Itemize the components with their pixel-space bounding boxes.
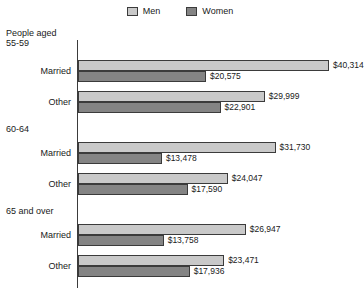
bar-row: $13,478: [78, 153, 329, 164]
bar-row: $29,999: [78, 91, 329, 102]
row-label: Married: [0, 230, 71, 240]
bar-women: [78, 184, 188, 195]
bar-value-label: $23,471: [224, 255, 259, 266]
bar-value-label: $31,730: [276, 142, 311, 153]
bar-men: [78, 255, 224, 266]
row-label: Other: [0, 97, 71, 107]
legend-entry-men: Men: [127, 7, 161, 16]
bar-men: [78, 142, 276, 153]
bar-value-label: $40,314: [329, 60, 364, 71]
bar-women: [78, 153, 162, 164]
plot-area: People aged55-59Married$40,314$20,575Oth…: [0, 26, 360, 303]
bar-value-label: $13,758: [164, 235, 199, 246]
bar-row: $22,901: [78, 102, 329, 113]
chart-legend: Men Women: [0, 3, 360, 19]
bar-men: [78, 60, 329, 71]
bar-row: $24,047: [78, 173, 329, 184]
legend-label-women: Women: [202, 7, 233, 16]
bar-value-label: $22,901: [221, 102, 256, 113]
group-header-2: 60-64: [6, 124, 77, 134]
bar-row: $17,936: [78, 266, 329, 277]
group-header-3: 65 and over: [6, 206, 77, 216]
legend-entry-women: Women: [186, 7, 233, 16]
legend-swatch-women: [186, 7, 197, 16]
bar-row: $23,471: [78, 255, 329, 266]
bar-value-label: $13,478: [162, 153, 197, 164]
bar-row: $13,758: [78, 235, 329, 246]
bar-men: [78, 224, 246, 235]
row-label: Other: [0, 261, 71, 271]
bar-value-label: $17,936: [190, 266, 225, 277]
bar-women: [78, 71, 206, 82]
bar-men: [78, 91, 265, 102]
group-header-line1: People aged: [6, 28, 77, 38]
bar-value-label: $26,947: [246, 224, 281, 235]
bar-men: [78, 173, 228, 184]
bar-row: $17,590: [78, 184, 329, 195]
row-label: Other: [0, 179, 71, 189]
bar-row: $31,730: [78, 142, 329, 153]
bar-row: $20,575: [78, 71, 329, 82]
bar-value-label: $29,999: [265, 91, 300, 102]
row-label: Married: [0, 148, 71, 158]
bar-women: [78, 102, 221, 113]
bar-value-label: $17,590: [188, 184, 223, 195]
group-header-1: People aged55-59: [6, 28, 77, 48]
bar-value-label: $24,047: [228, 173, 263, 184]
bar-row: $40,314: [78, 60, 329, 71]
group-header-line2: 55-59: [6, 38, 77, 48]
legend-swatch-men: [127, 7, 138, 16]
bar-value-label: $20,575: [206, 71, 241, 82]
bar-women: [78, 235, 164, 246]
bar-row: $26,947: [78, 224, 329, 235]
row-label: Married: [0, 66, 71, 76]
bar-women: [78, 266, 190, 277]
legend-label-men: Men: [143, 7, 161, 16]
